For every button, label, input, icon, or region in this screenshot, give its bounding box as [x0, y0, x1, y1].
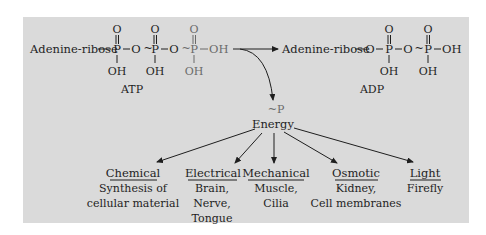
atp-p-2: P — [151, 42, 159, 56]
atp-o-top-1: O — [112, 23, 121, 36]
energy-example: Brain, — [195, 182, 229, 195]
atp-oh-3: OH — [185, 65, 204, 78]
energy-use-chemical: Chemical Synthesis of cellular material — [87, 166, 180, 210]
energy-use-mechanical: Mechanical Muscle, Cilia — [242, 166, 310, 210]
atp-bridge-o-2: O — [169, 42, 178, 56]
adp-oh-end: OH — [442, 42, 461, 56]
energy-example: cellular material — [87, 197, 180, 210]
energy-type: Chemical — [106, 166, 161, 180]
atp-p-3: P — [190, 42, 198, 56]
arrow-to-osmotic — [284, 132, 337, 163]
atp-p-1: P — [113, 42, 121, 56]
atp-molecule: Adenine-ribose O P OH O ~ O P OH O ~ O P… — [29, 23, 228, 96]
energy-example: Kidney, — [336, 182, 377, 195]
adp-oh-1: OH — [380, 65, 399, 78]
atp-o-top-2: O — [150, 23, 159, 36]
arrow-to-light — [294, 128, 413, 162]
adp-bridge-o: O — [403, 42, 412, 56]
energy-use-electrical: Electrical Brain, Nerve, Tongue — [185, 166, 241, 225]
energy-example: Nerve, — [193, 197, 231, 210]
adp-p-1: P — [385, 42, 393, 56]
energy-use-osmotic: Osmotic Kidney, Cell membranes — [311, 166, 402, 210]
adp-p-2: P — [424, 42, 432, 56]
phosphate-release-arrow — [240, 49, 273, 100]
arrow-to-electrical — [235, 133, 262, 163]
energy-type: Osmotic — [332, 166, 380, 180]
atp-oh-end: OH — [209, 42, 228, 56]
energy-type: Electrical — [185, 166, 241, 180]
atp-label: ATP — [120, 83, 144, 96]
adp-link-o: O — [365, 42, 374, 56]
energy-example: Cell membranes — [311, 197, 402, 210]
energy-type: Mechanical — [242, 166, 310, 180]
energy-example: Cilia — [263, 197, 289, 210]
adp-oh-2: OH — [419, 65, 438, 78]
energy-example: Firefly — [407, 182, 444, 195]
adp-o-top-2: O — [423, 23, 432, 36]
atp-energy-diagram: Adenine-ribose O P OH O ~ O P OH O ~ O P… — [0, 0, 486, 235]
released-phosphate: ~P — [268, 103, 285, 116]
energy-example: Synthesis of — [99, 182, 168, 195]
atp-oh-2: OH — [146, 65, 165, 78]
energy-example: Muscle, — [254, 182, 298, 195]
energy-example: Tongue — [192, 212, 233, 225]
energy-label: Energy — [252, 117, 294, 131]
adp-high-energy-bond: ~ — [414, 42, 423, 55]
atp-oh-1: OH — [108, 65, 127, 78]
adp-o-top-1: O — [384, 23, 393, 36]
adp-molecule: Adenine-ribose O O P OH O ~ O P OH OH AD… — [281, 23, 461, 96]
atp-o-top-3: O — [189, 23, 198, 36]
energy-type: Light — [410, 166, 441, 180]
energy-use-light: Light Firefly — [407, 166, 444, 195]
adp-label: ADP — [359, 83, 385, 96]
atp-bridge-o-1: O — [131, 42, 140, 56]
